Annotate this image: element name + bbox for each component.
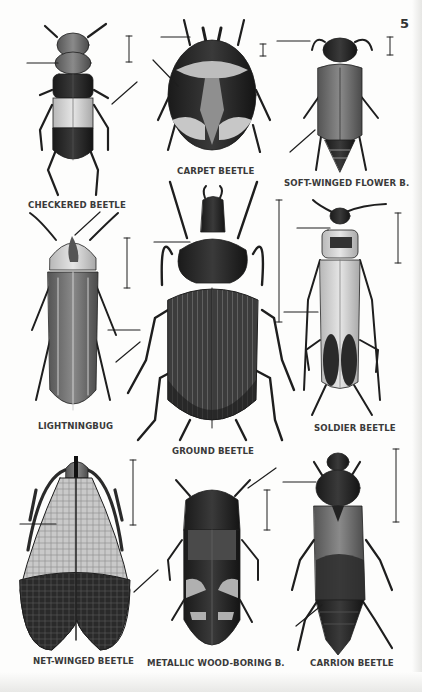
checkered-beetle-illustration: [27, 24, 137, 195]
net-winged-beetle-illustration: [20, 456, 158, 650]
label-soft-winged-flower-beetle: SOFT-WINGED FLOWER B.: [284, 178, 409, 188]
soldier-beetle-illustration: [284, 200, 401, 415]
page-number: 5: [400, 16, 409, 31]
label-lightningbug: LIGHTNINGBUG: [38, 421, 113, 431]
carrion-beetle-illustration: [283, 449, 399, 655]
label-net-winged-beetle: NET-WINGED BEETLE: [33, 656, 134, 666]
metallic-wood-boring-beetle-illustration: [168, 468, 276, 645]
soft-winged-flower-beetle-illustration: [277, 37, 393, 172]
label-carpet-beetle: CARPET BEETLE: [177, 166, 254, 176]
label-metallic-wood-boring-beetle: METALLIC WOOD-BORING B.: [147, 658, 285, 668]
label-soldier-beetle: SOLDIER BEETLE: [314, 423, 396, 433]
beetle-illustrations: [0, 0, 422, 692]
ground-beetle-illustration: [116, 182, 294, 440]
label-ground-beetle: GROUND BEETLE: [172, 446, 254, 456]
carpet-beetle-illustration: [153, 20, 270, 152]
label-checkered-beetle: CHECKERED BEETLE: [28, 200, 126, 210]
label-carrion-beetle: CARRION BEETLE: [310, 658, 394, 668]
lightningbug-illustration: [30, 212, 140, 410]
